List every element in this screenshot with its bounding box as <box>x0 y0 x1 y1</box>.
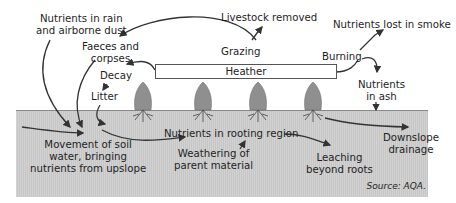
label-line: Weathering of <box>174 148 253 160</box>
label-burning: Burning <box>322 51 362 63</box>
grazing-to-livestock-arrow <box>252 27 262 40</box>
label-line: beyond roots <box>306 164 373 176</box>
label-grazing: Grazing <box>221 46 260 58</box>
label-livestock: Livestock removed <box>221 12 317 24</box>
label-line: water, bringing <box>30 151 146 163</box>
label-line: Faeces and <box>82 41 139 53</box>
litter-to-soil-arrow <box>97 105 105 124</box>
label-downslope: Downslope drainage <box>383 132 439 156</box>
roots-to-downslope-arrow <box>325 118 408 127</box>
label-line: nutrients from upslope <box>30 163 146 175</box>
label-line: Movement of soil <box>30 139 146 151</box>
label-line: drainage <box>383 144 439 156</box>
label-decay: Decay <box>100 70 132 82</box>
label-line: parent material <box>174 160 253 172</box>
label-leaching: Leaching beyond roots <box>306 152 373 176</box>
burning-to-smoke-arrow <box>360 30 383 50</box>
label-rain-dust: Nutrients in rain and airborne dust <box>36 13 127 37</box>
label-litter: Litter <box>91 91 118 103</box>
decay-to-litter-arrow <box>103 84 107 90</box>
source-credit: Source: AQA. <box>367 181 426 191</box>
label-soil-water: Movement of soil water, bringing nutrien… <box>30 139 146 175</box>
label-line: and airborne dust <box>36 25 127 37</box>
upslope-arrow <box>22 127 83 133</box>
label-line: Nutrients <box>358 79 405 91</box>
label-line: Leaching <box>306 152 373 164</box>
burning-to-ash-arrow <box>362 58 377 72</box>
heather-box: Heather <box>155 64 337 79</box>
label-faeces: Faeces and corpses <box>82 41 139 65</box>
label-rooting: Nutrients in rooting region <box>164 128 299 140</box>
label-line: Nutrients in rain <box>36 13 127 25</box>
label-ash: Nutrients in ash <box>358 79 405 103</box>
label-weathering: Weathering of parent material <box>174 148 253 172</box>
label-line: corpses <box>82 53 139 65</box>
label-smoke: Nutrients lost in smoke <box>333 19 451 31</box>
label-line: Downslope <box>383 132 439 144</box>
label-line: in ash <box>358 91 405 103</box>
rain-to-soil-arrow <box>43 40 70 127</box>
heather-plants <box>133 82 323 122</box>
